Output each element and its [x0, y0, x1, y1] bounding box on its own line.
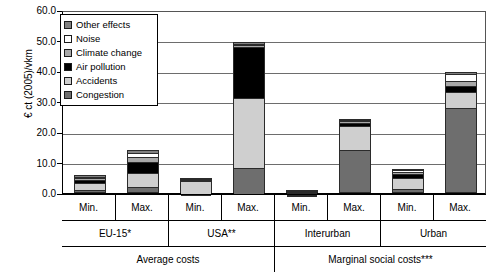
- legend-item: Air pollution: [64, 60, 153, 74]
- bar-segment: [340, 126, 370, 150]
- bar-segment: [393, 189, 423, 193]
- x-axis-leaf-label: Min.: [168, 194, 221, 220]
- bar-segment: [446, 108, 476, 193]
- y-axis-title: € ct (2005)/vkm: [23, 4, 34, 164]
- bar-segment: [340, 150, 370, 193]
- bar-stack: [445, 72, 477, 193]
- bar-segment: [446, 86, 476, 93]
- y-tick-label: 60.0: [16, 6, 56, 16]
- legend-label: Congestion: [76, 90, 124, 100]
- y-tick-mark: [57, 194, 62, 195]
- stacked-bar-chart: € ct (2005)/vkm Other effectsNoiseClimat…: [0, 0, 492, 272]
- legend-swatch-icon: [64, 91, 72, 99]
- x-axis-leaf-label: Max.: [433, 194, 486, 220]
- x-axis-leaf-label-text: Max.: [237, 202, 259, 213]
- x-axis-group-label-text: Interurban: [305, 228, 351, 239]
- x-axis-group-label-text: EU-15*: [99, 228, 131, 239]
- x-axis-leaf-label: Max.: [327, 194, 380, 220]
- x-axis-group-label: Urban: [380, 220, 486, 246]
- y-tick-label: 10.0: [16, 159, 56, 169]
- bar-stack: [233, 42, 265, 193]
- y-tick-label: 40.0: [16, 67, 56, 77]
- y-tick-mark: [57, 11, 62, 12]
- legend-label: Other effects: [76, 20, 130, 30]
- bar-segment: [234, 168, 264, 195]
- x-axis-group-label-text: USA**: [207, 228, 235, 239]
- y-tick-label: 30.0: [16, 98, 56, 108]
- x-axis-leaf-label-text: Max.: [131, 202, 153, 213]
- x-axis-leaf-label: Min.: [380, 194, 433, 220]
- legend-item: Congestion: [64, 88, 153, 102]
- legend-label: Noise: [76, 34, 100, 44]
- legend-item: Other effects: [64, 18, 153, 32]
- legend-label: Air pollution: [76, 62, 126, 72]
- legend-swatch-icon: [64, 77, 72, 85]
- x-axis-leaf-label: Max.: [221, 194, 274, 220]
- legend-swatch-icon: [64, 63, 72, 71]
- x-axis-leaf-label-text: Max.: [343, 202, 365, 213]
- x-axis-supergroup-label-text: Marginal social costs***: [328, 254, 433, 265]
- bar-segment: [234, 98, 264, 168]
- x-axis-supergroup-label: Average costs: [62, 246, 274, 272]
- x-axis-leaf-label-text: Min.: [292, 202, 311, 213]
- bar-segment: [128, 187, 158, 193]
- x-axis-group-row: EU-15*USA**InterurbanUrban: [62, 220, 486, 246]
- bar-segment: [234, 47, 264, 98]
- bar-segment: [128, 173, 158, 187]
- x-axis-group-label: EU-15*: [62, 220, 168, 246]
- bar-segment: [181, 181, 211, 194]
- bar-stack: [180, 178, 212, 193]
- x-axis-leaf-label-text: Min.: [79, 202, 98, 213]
- bar-segment: [393, 178, 423, 189]
- x-axis-supergroup-label-text: Average costs: [136, 254, 199, 265]
- gridline: [63, 134, 485, 135]
- x-axis-leaf-row: Min.Max.Min.Max.Min.Max.Min.Max.: [62, 194, 486, 220]
- y-tick-mark: [57, 163, 62, 164]
- legend-swatch-icon: [64, 21, 72, 29]
- bar-stack: [74, 175, 106, 193]
- x-axis-group-label: USA**: [168, 220, 274, 246]
- x-axis-leaf-label-text: Max.: [449, 202, 471, 213]
- bar-segment: [75, 183, 105, 190]
- x-axis-leaf-label: Max.: [115, 194, 168, 220]
- legend-item: Accidents: [64, 74, 153, 88]
- bar-segment: [446, 74, 476, 81]
- y-tick-label: 0.0: [16, 189, 56, 199]
- y-tick-label: 20.0: [16, 128, 56, 138]
- chart-legend: Other effectsNoiseClimate changeAir poll…: [60, 14, 158, 106]
- legend-swatch-icon: [64, 35, 72, 43]
- bar-stack: [392, 169, 424, 193]
- x-axis-leaf-label: Min.: [62, 194, 115, 220]
- bar-segment: [128, 162, 158, 172]
- x-axis-supergroup-label: Marginal social costs***: [274, 246, 486, 272]
- legend-label: Climate change: [76, 48, 142, 58]
- bar-stack: [339, 119, 371, 193]
- legend-item: Climate change: [64, 46, 153, 60]
- legend-label: Accidents: [76, 76, 117, 86]
- x-axis-supergroup-row: Average costsMarginal social costs***: [62, 246, 486, 272]
- bar-stack: [127, 150, 159, 193]
- x-axis-leaf-label-text: Min.: [186, 202, 205, 213]
- x-axis: Min.Max.Min.Max.Min.Max.Min.Max. EU-15*U…: [62, 194, 486, 272]
- bar-segment: [75, 190, 105, 193]
- bar-stack: [286, 190, 318, 193]
- legend-swatch-icon: [64, 49, 72, 57]
- x-axis-group-label-text: Urban: [420, 228, 447, 239]
- x-axis-leaf-label-text: Min.: [398, 202, 417, 213]
- y-tick-label: 50.0: [16, 37, 56, 47]
- y-tick-mark: [57, 133, 62, 134]
- x-axis-group-label: Interurban: [274, 220, 380, 246]
- x-axis-leaf-label: Min.: [274, 194, 327, 220]
- legend-item: Noise: [64, 32, 153, 46]
- bar-segment: [446, 92, 476, 107]
